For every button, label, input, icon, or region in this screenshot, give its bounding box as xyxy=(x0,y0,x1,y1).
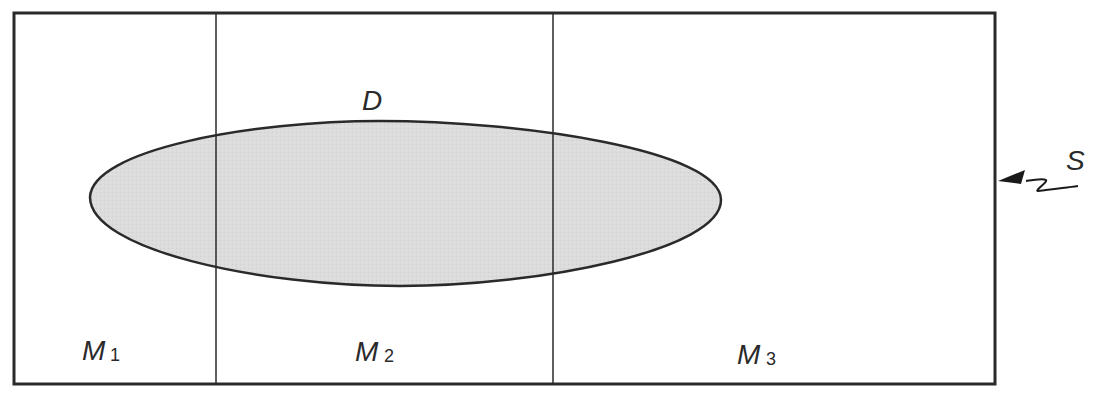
region-d-ellipse xyxy=(90,121,721,286)
compartment-label-m1: M 1 xyxy=(82,335,120,366)
diagram-canvas: D M 1 M 2 M 3 S xyxy=(0,0,1101,395)
compartment-label-m2: M 2 xyxy=(355,336,394,367)
svg-text:3: 3 xyxy=(766,349,776,369)
svg-text:2: 2 xyxy=(384,346,394,366)
svg-text:1: 1 xyxy=(110,345,120,365)
compartment-label-m3: M 3 xyxy=(737,339,776,370)
svg-text:M: M xyxy=(737,339,761,370)
region-d-label: D xyxy=(362,85,382,116)
svg-text:M: M xyxy=(355,336,379,367)
svg-text:M: M xyxy=(82,335,106,366)
source-s-label: S xyxy=(1066,145,1085,176)
